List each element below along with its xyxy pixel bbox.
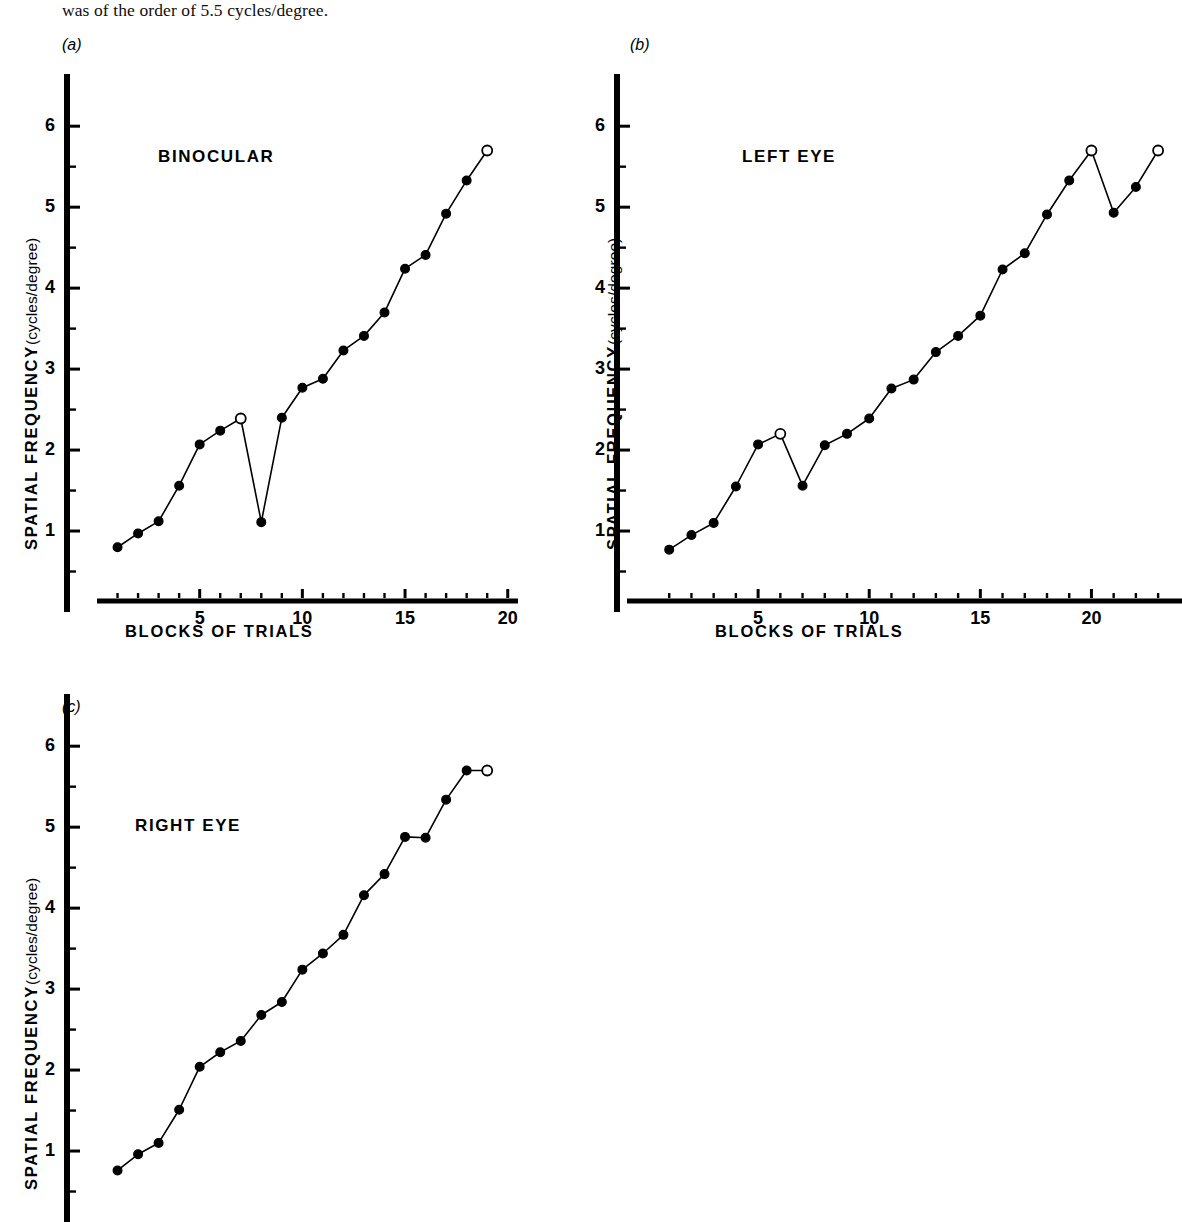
x-tick-label: 20 — [1075, 608, 1107, 629]
data-point-open — [1153, 145, 1163, 155]
data-point-filled — [1109, 208, 1118, 217]
data-point-filled — [195, 1062, 204, 1071]
data-point-filled — [380, 308, 389, 317]
data-series-line — [118, 150, 488, 547]
data-point-filled — [731, 482, 740, 491]
data-point-filled — [865, 414, 874, 423]
y-tick-label: 6 — [33, 735, 55, 756]
data-point-filled — [421, 251, 430, 260]
y-tick-label: 3 — [583, 358, 605, 379]
plot-c — [0, 690, 560, 1222]
y-tick-label: 2 — [33, 439, 55, 460]
data-point-filled — [360, 332, 369, 341]
data-point-filled — [154, 517, 163, 526]
panel-binocular: (a) BINOCULAR SPATIAL FREQUENCY(cycles/d… — [0, 30, 560, 670]
data-point-filled — [319, 374, 328, 383]
y-tick-label: 2 — [583, 439, 605, 460]
panel-right-eye: (c) RIGHT EYE SPATIAL FREQUENCY(cycles/d… — [0, 690, 560, 1222]
y-tick-label: 5 — [583, 196, 605, 217]
y-tick-label: 5 — [33, 196, 55, 217]
y-tick-label: 4 — [33, 897, 55, 918]
data-point-filled — [175, 1105, 184, 1114]
y-tick-label: 2 — [33, 1059, 55, 1080]
y-tick-label: 1 — [33, 1140, 55, 1161]
x-tick-label: 20 — [492, 608, 524, 629]
data-point-filled — [462, 176, 471, 185]
data-point-filled — [113, 543, 122, 552]
data-point-filled — [909, 375, 918, 384]
data-point-filled — [1131, 183, 1140, 192]
y-tick-label: 5 — [33, 816, 55, 837]
data-point-filled — [798, 481, 807, 490]
data-point-filled — [843, 429, 852, 438]
data-point-filled — [887, 384, 896, 393]
data-point-open — [482, 145, 492, 155]
data-point-filled — [380, 870, 389, 879]
data-point-filled — [134, 529, 143, 538]
data-point-filled — [687, 531, 696, 540]
data-point-filled — [319, 949, 328, 958]
data-point-filled — [216, 426, 225, 435]
data-point-filled — [998, 265, 1007, 274]
y-tick-label: 4 — [33, 277, 55, 298]
y-tick-label: 3 — [33, 978, 55, 999]
data-point-filled — [976, 311, 985, 320]
x-tick-label: 10 — [286, 608, 318, 629]
data-point-filled — [257, 518, 266, 527]
y-tick-label: 1 — [583, 520, 605, 541]
data-point-filled — [298, 383, 307, 392]
data-point-filled — [257, 1011, 266, 1020]
data-point-filled — [175, 481, 184, 490]
x-tick-label: 5 — [742, 608, 774, 629]
x-tick-label: 15 — [389, 608, 421, 629]
panel-left-eye: (b) LEFT EYE SPATIAL FREQUENCY(cycles/de… — [590, 30, 1182, 670]
data-point-filled — [954, 332, 963, 341]
x-tick-label: 10 — [853, 608, 885, 629]
data-point-filled — [462, 766, 471, 775]
data-point-filled — [442, 795, 451, 804]
data-point-filled — [931, 348, 940, 357]
y-tick-label: 3 — [33, 358, 55, 379]
y-tick-label: 1 — [33, 520, 55, 541]
data-point-filled — [134, 1150, 143, 1159]
data-point-filled — [154, 1139, 163, 1148]
running-text: was of the order of 5.5 cycles/degree. — [62, 0, 328, 21]
data-point-filled — [236, 1037, 245, 1046]
x-tick-label: 5 — [184, 608, 216, 629]
y-tick-label: 6 — [33, 115, 55, 136]
data-point-filled — [277, 413, 286, 422]
data-point-filled — [216, 1048, 225, 1057]
data-point-filled — [195, 440, 204, 449]
data-point-open — [775, 429, 785, 439]
y-tick-label: 6 — [583, 115, 605, 136]
plot-b — [590, 30, 1182, 670]
data-point-filled — [709, 519, 718, 528]
data-point-filled — [665, 545, 674, 554]
data-point-filled — [298, 965, 307, 974]
data-point-filled — [421, 833, 430, 842]
x-tick-label: 15 — [964, 608, 996, 629]
data-point-filled — [1020, 249, 1029, 258]
data-point-filled — [339, 346, 348, 355]
data-series-line — [669, 150, 1158, 549]
data-point-filled — [820, 441, 829, 450]
data-point-filled — [113, 1166, 122, 1175]
data-point-filled — [754, 440, 763, 449]
data-point-filled — [442, 209, 451, 218]
data-point-filled — [360, 891, 369, 900]
data-point-open — [1086, 145, 1096, 155]
data-point-filled — [401, 832, 410, 841]
data-point-filled — [339, 930, 348, 939]
data-point-open — [236, 413, 246, 423]
data-point-open — [482, 765, 492, 775]
data-point-filled — [1065, 176, 1074, 185]
data-point-filled — [401, 264, 410, 273]
y-tick-label: 4 — [583, 277, 605, 298]
data-point-filled — [277, 998, 286, 1007]
data-point-filled — [1043, 210, 1052, 219]
plot-a — [0, 30, 560, 670]
